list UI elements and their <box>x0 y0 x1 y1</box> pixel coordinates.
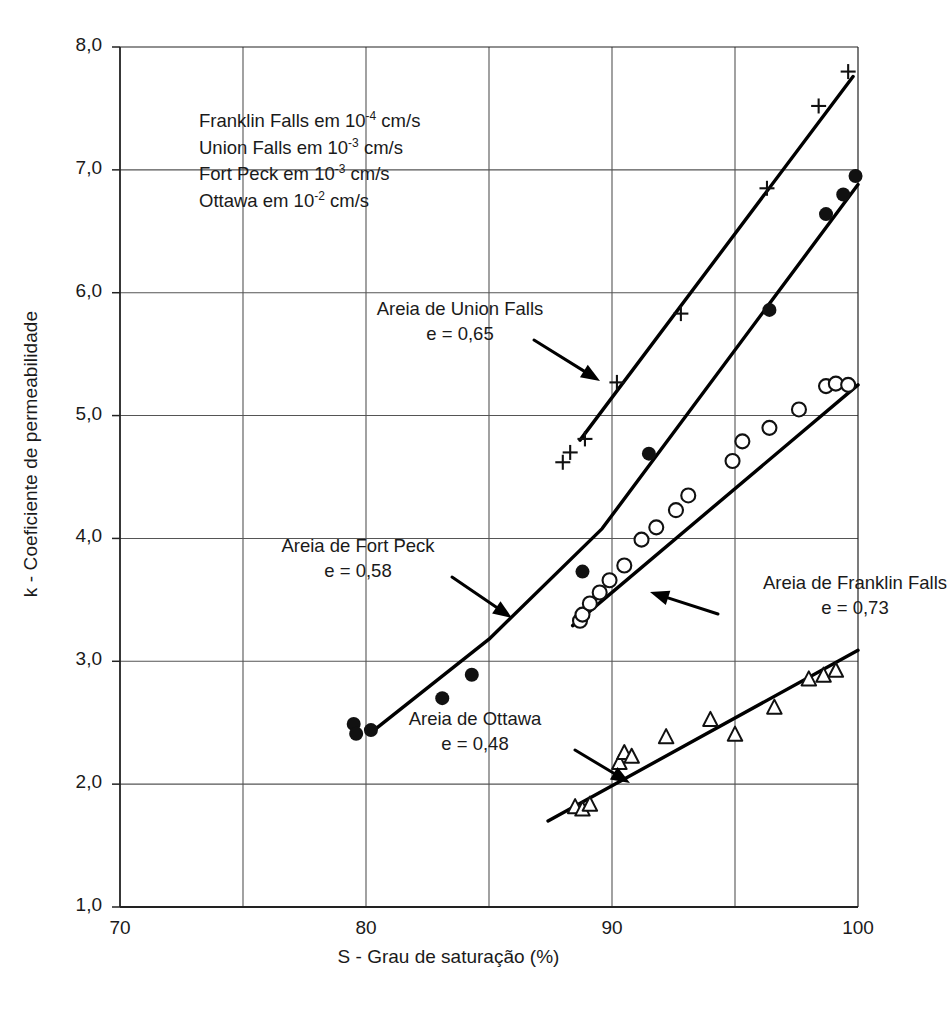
annotation-ottawa: Areia de Ottawae = 0,48 <box>360 706 590 756</box>
x-tick-label: 100 <box>828 917 888 939</box>
data-point-areia-de-fort-peck <box>849 169 863 183</box>
data-point-areia-de-fort-peck <box>465 668 479 682</box>
legend-label: Ottawa em 10 <box>199 190 314 211</box>
legend-unit: cm/s <box>359 137 403 158</box>
legend-exponent: -3 <box>348 135 359 149</box>
y-tick-label: 2,0 <box>42 771 102 793</box>
data-point-areia-de-fort-peck <box>435 691 449 705</box>
annotation-void-ratio: e = 0,73 <box>730 595 951 620</box>
data-point-areia-de-ottawa <box>728 727 743 741</box>
legend-exponent: -4 <box>366 109 377 123</box>
units-legend: Franklin Falls em 10-4 cm/sUnion Falls e… <box>199 108 420 214</box>
legend-row-fort-peck: Fort Peck em 10-3 cm/s <box>199 161 420 188</box>
annotation-fort-peck: Areia de Fort Pecke = 0,58 <box>238 533 478 583</box>
legend-label: Fort Peck em 10 <box>199 163 335 184</box>
trend-line-areia-de-union-falls <box>580 76 853 440</box>
y-tick-label: 7,0 <box>42 157 102 179</box>
annotation-arrow-union-falls <box>534 340 600 381</box>
annotation-title: Areia de Fort Peck <box>238 533 478 558</box>
data-point-areia-de-franklin-falls <box>841 378 855 392</box>
data-point-areia-de-franklin-falls <box>617 558 631 572</box>
legend-label: Franklin Falls em 10 <box>199 110 366 131</box>
x-axis-label: S - Grau de saturação (%) <box>0 946 897 968</box>
data-markers-group <box>347 64 863 816</box>
legend-unit: cm/s <box>325 190 369 211</box>
data-point-areia-de-ottawa <box>703 712 718 726</box>
annotation-void-ratio: e = 0,65 <box>340 321 580 346</box>
data-point-areia-de-union-falls <box>577 431 592 446</box>
legend-row-franklin-falls: Franklin Falls em 10-4 cm/s <box>199 108 420 135</box>
annotation-union-falls: Areia de Union Fallse = 0,65 <box>340 296 580 346</box>
data-point-areia-de-union-falls <box>811 98 826 113</box>
annotation-void-ratio: e = 0,58 <box>238 558 478 583</box>
x-tick-label: 80 <box>336 917 396 939</box>
x-tick-label: 70 <box>90 917 150 939</box>
data-point-areia-de-ottawa <box>659 729 674 743</box>
data-point-areia-de-fort-peck <box>762 303 776 317</box>
data-point-areia-de-franklin-falls <box>762 421 776 435</box>
y-tick-label: 3,0 <box>42 648 102 670</box>
y-tick-label: 1,0 <box>42 894 102 916</box>
data-point-areia-de-fort-peck <box>575 565 589 579</box>
x-tick-label: 90 <box>582 917 642 939</box>
legend-exponent: -2 <box>314 188 325 202</box>
data-point-areia-de-ottawa <box>767 700 782 714</box>
legend-unit: cm/s <box>345 163 389 184</box>
y-tick-label: 8,0 <box>42 34 102 56</box>
data-point-areia-de-franklin-falls <box>649 520 663 534</box>
legend-row-union-falls: Union Falls em 10-3 cm/s <box>199 135 420 162</box>
legend-label: Union Falls em 10 <box>199 137 348 158</box>
y-tick-label: 4,0 <box>42 525 102 547</box>
data-point-areia-de-union-falls <box>555 455 570 470</box>
data-point-areia-de-fort-peck <box>819 207 833 221</box>
data-point-areia-de-franklin-falls <box>593 585 607 599</box>
legend-exponent: -3 <box>335 162 346 176</box>
data-point-areia-de-franklin-falls <box>635 533 649 547</box>
annotation-arrow-franklin-falls <box>650 591 718 614</box>
data-point-areia-de-franklin-falls <box>726 454 740 468</box>
y-tick-label: 6,0 <box>42 280 102 302</box>
data-point-areia-de-fort-peck <box>642 447 656 461</box>
data-point-areia-de-franklin-falls <box>735 434 749 448</box>
data-point-areia-de-franklin-falls <box>792 402 806 416</box>
data-point-areia-de-union-falls <box>673 306 688 321</box>
data-point-areia-de-union-falls <box>563 445 578 460</box>
annotation-title: Areia de Ottawa <box>360 706 590 731</box>
data-point-areia-de-franklin-falls <box>669 503 683 517</box>
legend-unit: cm/s <box>376 110 420 131</box>
annotation-void-ratio: e = 0,48 <box>360 731 590 756</box>
legend-row-ottawa: Ottawa em 10-2 cm/s <box>199 188 420 215</box>
annotation-title: Areia de Franklin Falls <box>730 570 951 595</box>
data-point-areia-de-ottawa <box>583 797 598 811</box>
data-point-areia-de-franklin-falls <box>681 488 695 502</box>
annotation-franklin-falls: Areia de Franklin Fallse = 0,73 <box>730 570 951 620</box>
annotation-arrow-fort-peck <box>452 577 512 618</box>
y-tick-label: 5,0 <box>42 403 102 425</box>
y-axis-label: k - Coeficiente de permeabilidade <box>20 310 42 596</box>
data-point-areia-de-fort-peck <box>836 187 850 201</box>
trend-line-areia-de-fort-peck <box>371 185 858 733</box>
data-point-areia-de-franklin-falls <box>603 573 617 587</box>
annotation-title: Areia de Union Falls <box>340 296 580 321</box>
